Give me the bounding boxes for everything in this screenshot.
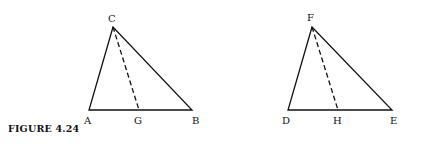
- segment-fh-dashed: [312, 27, 338, 110]
- triangle-abc-outline: [89, 27, 192, 110]
- segment-cg-dashed: [113, 27, 139, 110]
- label-h: H: [333, 115, 342, 126]
- label-e: E: [390, 115, 397, 126]
- label-f: F: [307, 12, 314, 23]
- label-b: B: [192, 115, 199, 126]
- label-g: G: [134, 115, 142, 126]
- figure-canvas: C A G B F D H E FIGURE 4.24: [0, 0, 422, 146]
- label-d: D: [282, 115, 290, 126]
- label-c: C: [108, 13, 116, 24]
- triangle-def-outline: [288, 27, 392, 110]
- triangle-abc: C A G B: [83, 13, 199, 126]
- label-a: A: [83, 115, 92, 126]
- triangle-def: F D H E: [282, 12, 397, 126]
- figure-caption: FIGURE 4.24: [8, 123, 80, 134]
